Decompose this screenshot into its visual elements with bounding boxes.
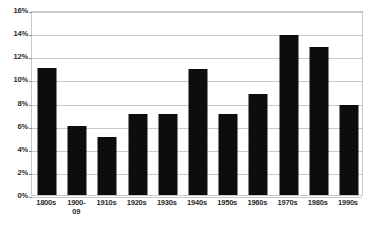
bar (249, 94, 268, 195)
x-axis-tick-label: 1900- 09 (61, 198, 91, 216)
bar-slot (243, 12, 273, 195)
bars-series (32, 12, 362, 195)
y-axis-tick-label: 8% (18, 100, 28, 108)
bar (128, 114, 147, 195)
x-axis-tick-label: 1940s (182, 198, 212, 207)
x-axis-tick-label: 1970s (272, 198, 302, 207)
bar-chart: 0%2%4%6%8%10%12%14%16% 1800s1900- 091910… (0, 0, 374, 231)
bar (309, 47, 328, 195)
bar-slot (92, 12, 122, 195)
y-axis-tick-label: 0% (18, 192, 28, 200)
x-axis-tick-label: 1920s (122, 198, 152, 207)
x-axis-tick-label: 1990s (333, 198, 363, 207)
bar (219, 114, 238, 195)
x-axis-tick-label: 1910s (91, 198, 121, 207)
x-axis-tick-label: 1980s (303, 198, 333, 207)
bar (158, 114, 177, 195)
bar (339, 105, 358, 195)
x-axis-tick-label: 1960s (242, 198, 272, 207)
y-axis-tick-label: 12% (14, 54, 28, 62)
bar (98, 137, 117, 195)
y-axis-tick-label: 2% (18, 169, 28, 177)
bar-slot (273, 12, 303, 195)
x-axis: 1800s1900- 091910s1920s1930s1940s1950s19… (31, 198, 363, 231)
bar (68, 126, 87, 195)
y-axis-tick-label: 16% (14, 7, 28, 15)
bar-slot (32, 12, 62, 195)
y-axis-tick-label: 10% (14, 77, 28, 85)
bar-slot (62, 12, 92, 195)
y-axis-tick-label: 6% (18, 123, 28, 131)
bar-slot (334, 12, 364, 195)
bar (279, 35, 298, 195)
bar-slot (183, 12, 213, 195)
x-axis-tick-label: 1930s (152, 198, 182, 207)
bar (38, 68, 57, 195)
bar-slot (123, 12, 153, 195)
x-axis-tick-label: 1950s (212, 198, 242, 207)
plot-area (31, 11, 363, 196)
bar-slot (213, 12, 243, 195)
y-axis-tick-label: 14% (14, 30, 28, 38)
x-axis-tick-label: 1800s (31, 198, 61, 207)
y-axis: 0%2%4%6%8%10%12%14%16% (0, 0, 31, 231)
bar (188, 69, 207, 195)
bar-slot (153, 12, 183, 195)
y-axis-tick-label: 4% (18, 146, 28, 154)
bar-slot (304, 12, 334, 195)
